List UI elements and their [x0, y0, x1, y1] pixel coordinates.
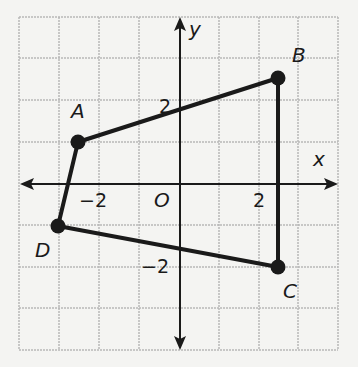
point-B: [271, 71, 286, 86]
x-axis-label: x: [312, 147, 325, 171]
tick-label-x-pos2: 2: [253, 189, 265, 211]
point-D: [51, 219, 66, 234]
point-A: [71, 135, 86, 150]
point-label-D: D: [35, 238, 50, 262]
point-label-A: A: [69, 99, 85, 123]
tick-label-x-neg2: −2: [79, 189, 107, 211]
tick-label-y-neg2: −2: [141, 255, 169, 277]
point-C: [271, 260, 286, 275]
origin-label: O: [154, 188, 170, 212]
y-axis-label: y: [188, 17, 202, 41]
point-label-C: C: [283, 279, 297, 303]
coordinate-plane: y x O −2 2 2 −2 A B C D: [0, 0, 358, 367]
point-label-B: B: [292, 43, 306, 67]
